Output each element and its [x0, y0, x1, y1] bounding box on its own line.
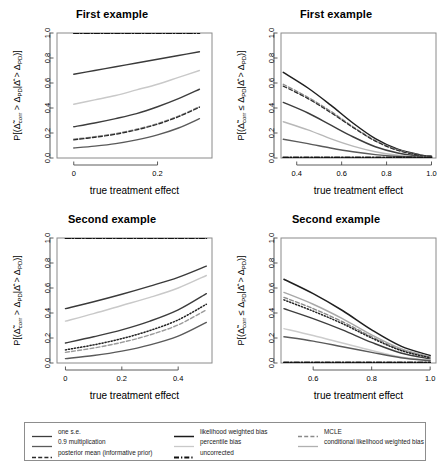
plot-svg-bottom-right: 0.00.20.40.60.81.00.60.81.0true treatmen… [224, 205, 448, 410]
legend-label: percentile bias [200, 437, 241, 446]
legend-item: posterior mean (informative prior) [31, 447, 152, 457]
y-tick-label: 0.2 [43, 128, 52, 138]
legend-label: posterior mean (informative prior) [58, 448, 152, 457]
x-tick-label: 0 [63, 374, 67, 383]
legend-label: MCLE [324, 427, 342, 436]
series-line [284, 329, 430, 361]
legend-item: percentile bias [173, 437, 268, 447]
x-axis-title: true treatment effect [90, 185, 180, 196]
x-tick-label: 0.2 [152, 169, 162, 178]
x-tick-label: 1.0 [425, 374, 435, 383]
legend-item: MCLE [297, 427, 424, 437]
plot-area-top-right: 0.00.20.40.60.81.00.40.60.81.0true treat… [224, 0, 448, 205]
x-axis-title: true treatment effect [90, 390, 180, 401]
legend-label: uncorrected [200, 448, 234, 457]
y-tick-label: 1.0 [43, 28, 52, 38]
x-tick-label: 0.6 [336, 169, 346, 178]
plot-svg-top-left: 0.00.20.40.60.81.000.2true treatment eff… [0, 0, 224, 205]
y-tick-label: 0.4 [43, 103, 52, 113]
y-tick-label: 0.8 [267, 258, 276, 268]
legend-item: uncorrected [173, 447, 268, 457]
legend-line-swatch [31, 427, 53, 436]
y-tick-label: 0.8 [43, 53, 52, 63]
series-group [74, 33, 200, 148]
legend-line-swatch [297, 427, 319, 436]
y-tick-label: 0.0 [267, 358, 276, 368]
plot-svg-top-right: 0.00.20.40.60.81.00.40.60.81.0true treat… [224, 0, 448, 205]
y-tick-label: 1.0 [267, 28, 276, 38]
legend-column-1: one s.e.0.9 multiplicationposterior mean… [31, 427, 152, 458]
legend-line-swatch [297, 437, 319, 446]
legend-line-swatch [31, 448, 53, 457]
y-tick-label: 0.8 [267, 53, 276, 63]
series-line [284, 279, 430, 355]
legend-label: one s.e. [58, 427, 81, 436]
y-tick-label: 0.6 [267, 283, 276, 293]
y-tick-label: 1.0 [43, 233, 52, 243]
series-line [74, 71, 200, 105]
y-tick-label: 0.6 [43, 78, 52, 88]
series-group [283, 72, 431, 157]
plot-frame [57, 238, 212, 363]
x-tick-label: 0.2 [117, 374, 127, 383]
x-tick-label: 0.4 [292, 169, 302, 178]
y-tick-label: 0.2 [267, 128, 276, 138]
panel-top-right: First example 0.00.20.40.60.81.00.40.60.… [224, 0, 448, 205]
x-tick-label: 0 [72, 169, 76, 178]
legend-label: conditional likelihood weighted bias [324, 437, 424, 446]
series-group [65, 238, 206, 359]
x-tick-label: 0.8 [381, 169, 391, 178]
y-tick-label: 0.0 [43, 153, 52, 163]
legend-label: likelihood weighted bias [200, 427, 268, 436]
legend-line-swatch [31, 437, 53, 446]
y-tick-label: 0.4 [267, 103, 276, 113]
y-tick-label: 0.6 [267, 78, 276, 88]
series-line [283, 84, 431, 156]
legend: one s.e.0.9 multiplicationposterior mean… [24, 422, 426, 461]
plot-area-bottom-left: 0.00.20.40.60.81.000.20.4true treatment … [0, 205, 224, 410]
series-line [65, 322, 206, 358]
legend-line-swatch [173, 437, 195, 446]
legend-column-3: MCLEconditional likelihood weighted bias [297, 427, 424, 447]
legend-label: 0.9 multiplication [58, 437, 106, 446]
panel-top-left: First example 0.00.20.40.60.81.000.2true… [0, 0, 224, 205]
series-line [74, 89, 200, 127]
series-line [65, 266, 206, 309]
y-tick-label: 1.0 [267, 233, 276, 243]
x-axis-title: true treatment effect [314, 390, 404, 401]
legend-item: likelihood weighted bias [173, 427, 268, 437]
panel-bottom-right: Second example 0.00.20.40.60.81.00.60.81… [224, 205, 448, 410]
x-tick-label: 0.8 [366, 374, 376, 383]
y-tick-label: 0.2 [43, 333, 52, 343]
svg-text:P[(Δ̃corr​ > ΔPD​|Δ̂ > ΔPD​)]: P[(Δ̃corr​ > ΔPD​|Δ̂ > ΔPD​)] [12, 255, 23, 345]
panel-bottom-left: Second example 0.00.20.40.60.81.000.20.4… [0, 205, 224, 410]
y-tick-label: 0.8 [43, 258, 52, 268]
legend-item: one s.e. [31, 427, 152, 437]
legend-line-swatch [173, 427, 195, 436]
plot-area-bottom-right: 0.00.20.40.60.81.00.60.81.0true treatmen… [224, 205, 448, 410]
y-tick-label: 0.6 [43, 283, 52, 293]
x-tick-label: 1.0 [426, 169, 436, 178]
series-line [65, 304, 206, 350]
y-axis-title: P[(Δ̃corr​ > ΔPD​|Δ̂ > ΔPD​)] [12, 255, 23, 345]
x-axis-title: true treatment effect [314, 185, 404, 196]
y-tick-label: 0.2 [267, 333, 276, 343]
x-tick-label: 0.4 [173, 374, 183, 383]
y-tick-label: 0.4 [43, 308, 52, 318]
x-tick-label: 0.6 [308, 374, 318, 383]
series-line [65, 276, 206, 322]
figure-canvas: First example 0.00.20.40.60.81.000.2true… [0, 0, 448, 475]
y-axis-title: P[(Δ̃corr​ ≤ ΔPD​|Δ̂ > ΔPD​)] [236, 255, 247, 345]
plot-area-top-left: 0.00.20.40.60.81.000.2true treatment eff… [0, 0, 224, 205]
plot-svg-bottom-left: 0.00.20.40.60.81.000.20.4true treatment … [0, 205, 224, 410]
legend-columns: one s.e.0.9 multiplicationposterior mean… [25, 423, 425, 460]
legend-column-2: likelihood weighted biaspercentile biasu… [173, 427, 268, 458]
svg-text:P[(Δ̃corr​ ≤ ΔPD​|Δ̂ > ΔPD​)]: P[(Δ̃corr​ ≤ ΔPD​|Δ̂ > ΔPD​)] [236, 50, 247, 140]
y-tick-label: 0.0 [43, 358, 52, 368]
y-axis-title: P[(Δ̃corr​ > ΔPD​|Δ̂ > ΔPD​)] [12, 50, 23, 140]
legend-item: conditional likelihood weighted bias [297, 437, 424, 447]
y-tick-label: 0.0 [267, 153, 276, 163]
svg-text:P[(Δ̃corr​ > ΔPD​|Δ̂ > ΔPD​)]: P[(Δ̃corr​ > ΔPD​|Δ̂ > ΔPD​)] [12, 50, 23, 140]
svg-text:P[(Δ̃corr​ ≤ ΔPD​|Δ̂ > ΔPD​)]: P[(Δ̃corr​ ≤ ΔPD​|Δ̂ > ΔPD​)] [236, 255, 247, 345]
y-axis-title: P[(Δ̃corr​ ≤ ΔPD​|Δ̂ > ΔPD​)] [236, 50, 247, 140]
